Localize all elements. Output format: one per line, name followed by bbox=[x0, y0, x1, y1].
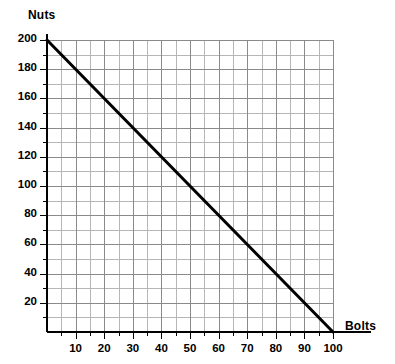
y-tick-label: 20 bbox=[3, 295, 37, 307]
y-tick-label: 180 bbox=[3, 61, 37, 73]
x-axis-title: Bolts bbox=[345, 319, 376, 333]
chart-container: Nuts Bolts 20018016014012010080604020 10… bbox=[0, 0, 395, 364]
y-tick-label: 140 bbox=[3, 120, 37, 132]
y-tick-label: 80 bbox=[3, 207, 37, 219]
y-tick-label: 100 bbox=[3, 178, 37, 190]
y-tick-label: 160 bbox=[3, 90, 37, 102]
x-tick-label: 100 bbox=[316, 342, 350, 354]
y-tick-label: 60 bbox=[3, 236, 37, 248]
y-tick-label: 200 bbox=[3, 32, 37, 44]
y-tick-label: 120 bbox=[3, 149, 37, 161]
y-axis-title: Nuts bbox=[28, 8, 55, 22]
chart-canvas bbox=[0, 0, 395, 364]
y-tick-label: 40 bbox=[3, 266, 37, 278]
